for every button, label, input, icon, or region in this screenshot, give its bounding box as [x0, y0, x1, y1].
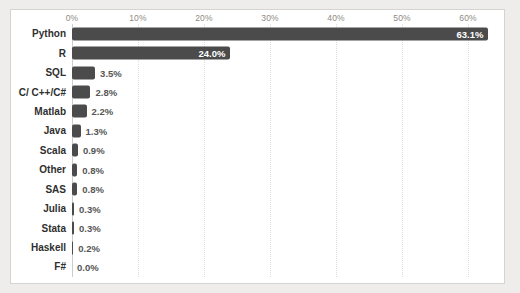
bar [72, 105, 87, 118]
value-label: 2.8% [95, 87, 117, 98]
category-label: Scala [11, 145, 66, 156]
bar-row: SAS0.8% [11, 180, 504, 199]
bar-row: R24.0% [11, 43, 504, 62]
bar-area: 0.3% [72, 218, 504, 237]
category-label: SQL [11, 67, 66, 78]
bar-row: Matlab2.2% [11, 102, 504, 121]
value-label: 0.9% [83, 145, 105, 156]
bar [72, 183, 77, 196]
bar-area: 24.0% [72, 43, 504, 62]
bar [72, 27, 488, 40]
bar-row: Other0.8% [11, 160, 504, 179]
screen: 0%10%20%30%40%50%60% Python63.1%R24.0%SQ… [0, 0, 520, 293]
bar-row: C/ C++/C#2.8% [11, 82, 504, 101]
value-label: 3.5% [100, 67, 122, 78]
bar [72, 66, 95, 79]
bar-rows: Python63.1%R24.0%SQL3.5%C/ C++/C#2.8%Mat… [11, 24, 504, 277]
bar [72, 124, 81, 137]
value-label: 0.2% [78, 242, 100, 253]
value-label: 0.0% [77, 261, 99, 272]
bar [72, 86, 90, 99]
category-label: Haskell [11, 242, 66, 253]
value-label: 0.3% [79, 203, 101, 214]
x-tick-label: 50% [393, 13, 411, 23]
category-label: Java [11, 125, 66, 136]
x-tick-label: 10% [129, 13, 147, 23]
value-label: 0.8% [82, 164, 104, 175]
bar-row: Scala0.9% [11, 141, 504, 160]
bar-area: 2.8% [72, 82, 504, 101]
x-tick-label: 0% [66, 13, 79, 23]
bar-area: 2.2% [72, 102, 504, 121]
category-label: C/ C++/C# [11, 87, 66, 98]
bar-row: Java1.3% [11, 121, 504, 140]
category-label: Stata [11, 223, 66, 234]
bar [72, 163, 77, 176]
bar [72, 241, 73, 254]
x-axis-ticks: 0%10%20%30%40%50%60% [11, 13, 504, 24]
bar-chart-panel: 0%10%20%30%40%50%60% Python63.1%R24.0%SQ… [10, 9, 505, 284]
x-tick-label: 40% [327, 13, 345, 23]
bar-area: 3.5% [72, 63, 504, 82]
bar [72, 202, 74, 215]
category-label: SAS [11, 184, 66, 195]
bar-row: Haskell0.2% [11, 238, 504, 257]
category-label: F# [11, 261, 66, 272]
category-label: Matlab [11, 106, 66, 117]
x-tick-label: 20% [195, 13, 213, 23]
category-label: R [11, 48, 66, 59]
bar-row: Julia0.3% [11, 199, 504, 218]
bar-row: F#0.0% [11, 257, 504, 276]
bar-area: 0.0% [72, 257, 504, 276]
bar-area: 1.3% [72, 121, 504, 140]
category-label: Julia [11, 203, 66, 214]
bar-row: Stata0.3% [11, 218, 504, 237]
bar-area: 0.8% [72, 180, 504, 199]
bar [72, 222, 74, 235]
bar-row: Python63.1% [11, 24, 504, 43]
bar-area: 0.3% [72, 199, 504, 218]
x-tick-label: 60% [459, 13, 477, 23]
bar-area: 0.2% [72, 238, 504, 257]
value-label: 0.3% [79, 223, 101, 234]
category-label: Other [11, 164, 66, 175]
category-label: Python [11, 28, 66, 39]
bar-area: 0.9% [72, 141, 504, 160]
value-label: 1.3% [86, 125, 108, 136]
bar-area: 63.1% [72, 24, 504, 43]
value-label: 24.0% [198, 48, 225, 59]
value-label: 63.1% [457, 28, 484, 39]
x-tick-label: 30% [261, 13, 279, 23]
value-label: 0.8% [82, 184, 104, 195]
bar-row: SQL3.5% [11, 63, 504, 82]
bar [72, 144, 78, 157]
bar-area: 0.8% [72, 160, 504, 179]
value-label: 2.2% [92, 106, 114, 117]
